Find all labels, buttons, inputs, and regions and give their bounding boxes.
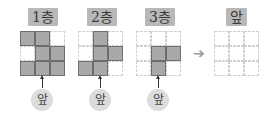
filled-cell: [151, 61, 166, 76]
layer-2-label: 2층: [87, 8, 117, 26]
layer-3-grid: [136, 31, 181, 76]
filled-cell: [93, 31, 108, 46]
empty-cell[interactable]: [229, 31, 244, 46]
empty-cell: [136, 61, 151, 76]
empty-cell[interactable]: [214, 31, 229, 46]
result-grid[interactable]: [214, 31, 259, 76]
up-arrow-icon: [100, 78, 101, 88]
empty-cell[interactable]: [229, 61, 244, 76]
filled-cell: [50, 46, 65, 61]
layer-2-grid: [78, 31, 123, 76]
right-arrow-icon: ➔: [193, 45, 205, 61]
filled-cell: [108, 46, 123, 61]
filled-cell: [93, 61, 108, 76]
layer-1-label: 1층: [28, 8, 58, 26]
front-marker: 앞: [31, 89, 53, 111]
up-arrow-icon: [158, 78, 159, 88]
empty-cell: [78, 46, 93, 61]
empty-cell[interactable]: [244, 46, 259, 61]
empty-cell[interactable]: [214, 46, 229, 61]
empty-cell[interactable]: [244, 61, 259, 76]
layer-3-label: 3층: [145, 8, 175, 26]
filled-cell: [151, 46, 166, 61]
filled-cell: [20, 31, 35, 46]
empty-cell: [136, 46, 151, 61]
empty-cell: [136, 31, 151, 46]
empty-cell: [108, 61, 123, 76]
empty-cell: [20, 46, 35, 61]
empty-cell: [78, 31, 93, 46]
empty-cell: [166, 61, 181, 76]
result-label: 앞: [226, 8, 247, 26]
empty-cell[interactable]: [214, 61, 229, 76]
filled-cell: [35, 31, 50, 46]
filled-cell: [93, 46, 108, 61]
filled-cell: [50, 61, 65, 76]
layer-1-grid: [20, 31, 65, 76]
front-marker: 앞: [89, 89, 111, 111]
filled-cell: [166, 46, 181, 61]
empty-cell[interactable]: [244, 31, 259, 46]
empty-cell: [166, 31, 181, 46]
empty-cell: [50, 31, 65, 46]
filled-cell: [35, 46, 50, 61]
empty-cell[interactable]: [229, 46, 244, 61]
filled-cell: [78, 61, 93, 76]
empty-cell: [151, 31, 166, 46]
up-arrow-icon: [42, 78, 43, 88]
filled-cell: [35, 61, 50, 76]
empty-cell: [108, 31, 123, 46]
filled-cell: [20, 61, 35, 76]
front-marker: 앞: [147, 89, 169, 111]
